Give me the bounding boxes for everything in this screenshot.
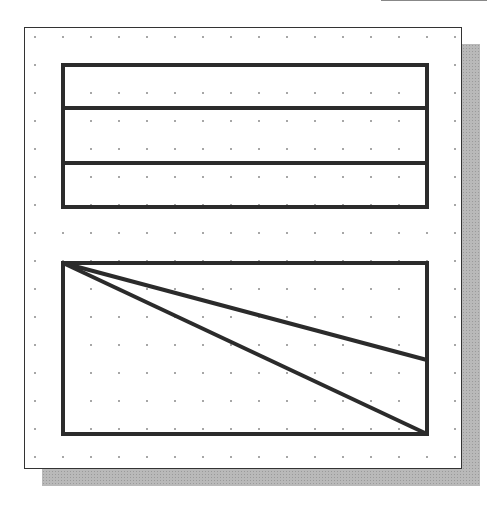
upper-rectangle[interactable]	[63, 65, 427, 207]
lower-rectangle-group[interactable]	[63, 263, 427, 434]
sketch-canvas[interactable]	[0, 0, 487, 508]
upper-rectangle-group[interactable]	[63, 65, 427, 207]
diagonal-line-upper[interactable]	[63, 263, 427, 360]
dot-grid	[34, 36, 456, 458]
diagonal-line-lower[interactable]	[63, 263, 427, 434]
